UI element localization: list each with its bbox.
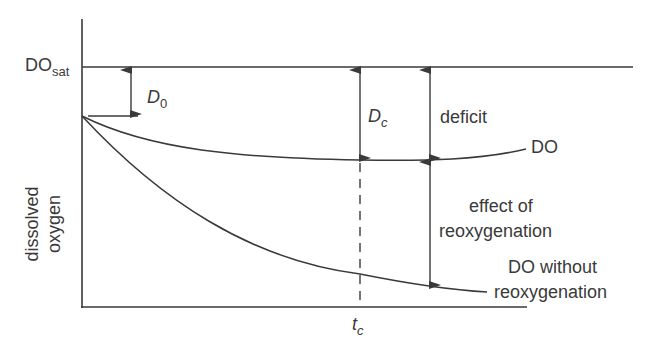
dc-label: Dc (368, 107, 388, 125)
y-axis-label: dissolved oxygen (21, 169, 69, 279)
do-label: DO (531, 138, 558, 156)
do-without-reoxygenation-curve (82, 116, 487, 292)
y-axis-label-line1: dissolved (21, 169, 43, 279)
deficit-label: deficit (440, 108, 487, 126)
without-label-line1: DO without (508, 258, 597, 276)
do-sat-label: DOsat (25, 56, 69, 74)
y-axis-label-line2: oxygen (43, 169, 65, 279)
effect-label-line2: reoxygenation (439, 222, 552, 240)
tc-label: tc (352, 315, 364, 333)
without-label-line2: reoxygenation (494, 283, 607, 301)
d0-label: D0 (147, 88, 167, 106)
effect-label-line1: effect of (469, 197, 533, 215)
